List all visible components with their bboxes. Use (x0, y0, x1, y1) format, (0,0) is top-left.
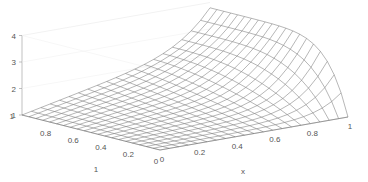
y-tick-label: 0.4 (95, 143, 107, 152)
z-gridline (22, 29, 210, 62)
x-tick-label: 0.8 (307, 129, 319, 138)
x-tick-label: 0.2 (194, 148, 206, 157)
surface-plot: 123400.20.40.60.8100.20.40.60.81x1 (0, 0, 368, 182)
mesh-line-const-y (63, 18, 251, 125)
z-gridline (22, 56, 210, 89)
mesh-line-const-x (163, 54, 301, 126)
mesh-line-const-y (105, 31, 293, 136)
z-tick-label: 2 (12, 85, 17, 94)
x-axis-label: x (241, 167, 245, 176)
y-tick-label: 0 (154, 157, 159, 166)
x-tick-label: 0 (160, 155, 165, 164)
y-tick-label: 0.6 (68, 136, 80, 145)
mesh-line-const-y (91, 26, 279, 133)
y-tick-label: 0.8 (40, 129, 52, 138)
y-axis-end-label: 1 (94, 165, 99, 174)
mesh-line-const-x (116, 78, 254, 134)
mesh-line-const-y (70, 20, 258, 127)
z-tick-label: 4 (12, 32, 17, 41)
surface-mesh (22, 8, 348, 150)
back-wall-top (22, 3, 210, 36)
y-tick-label: 0.2 (123, 150, 135, 159)
mesh-line-const-y (153, 93, 341, 148)
x-tick-label: 0.6 (269, 135, 281, 144)
z-tick-label: 3 (12, 58, 17, 67)
mesh-line-const-y (36, 11, 224, 118)
mesh-line-const-x (182, 40, 320, 122)
x-tick-label: 1 (348, 122, 353, 131)
mesh-line-const-y (126, 44, 314, 141)
side-wall-top (22, 36, 160, 71)
mesh-line-const-x (125, 73, 263, 131)
x-tick-label: 0.4 (232, 142, 244, 151)
axis-tick-labels: 123400.20.40.60.8100.20.40.60.81x1 (10, 32, 353, 177)
z-tick-label-base: 1 (10, 112, 15, 121)
mesh-line-const-y (57, 17, 245, 124)
mesh-line-const-y (119, 38, 307, 139)
